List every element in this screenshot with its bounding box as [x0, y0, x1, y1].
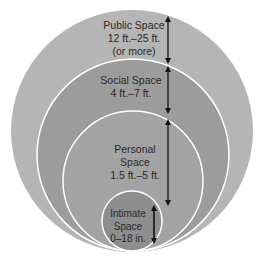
- public-space-range: 12 ft.–25 ft.: [103, 32, 164, 45]
- intimate-space-word: Space: [110, 221, 146, 234]
- personal-space-range: 1.5 ft.–5 ft.: [110, 169, 160, 182]
- social-space-label: Social Space 4 ft.–7 ft.: [100, 74, 161, 100]
- social-space-range: 4 ft.–7 ft.: [100, 87, 161, 100]
- public-space-label: Public Space 12 ft.–25 ft. (or more): [103, 19, 164, 58]
- social-space-title: Social Space: [100, 74, 161, 87]
- personal-space-word: Space: [110, 156, 160, 169]
- intimate-space-range: 0–18 in.: [110, 233, 146, 246]
- intimate-space-title: Intimate: [110, 208, 146, 221]
- intimate-space-label: Intimate Space 0–18 in.: [110, 208, 146, 246]
- personal-space-label: Personal Space 1.5 ft.–5 ft.: [110, 143, 160, 182]
- personal-space-title: Personal: [110, 143, 160, 156]
- public-space-title: Public Space: [103, 19, 164, 32]
- public-space-note: (or more): [103, 45, 164, 58]
